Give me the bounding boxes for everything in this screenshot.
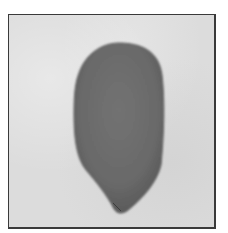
- seed-image: [9, 15, 216, 229]
- photo-frame: [8, 14, 216, 229]
- seed-shape: [74, 43, 164, 213]
